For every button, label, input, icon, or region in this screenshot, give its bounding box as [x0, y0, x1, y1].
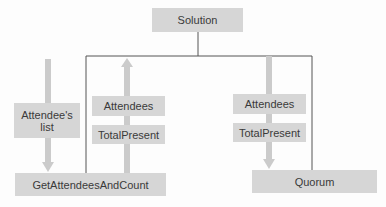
flow-label-totalpresent-out: TotalPresent — [92, 125, 165, 144]
flow-label-attendees-in: Attendees — [233, 94, 306, 114]
flow-label-totalpresent-in: TotalPresent — [233, 123, 306, 142]
module-get-attendees-and-count: GetAttendeesAndCount — [15, 173, 166, 196]
diagram-canvas: Solution Attendee's list Attendees Total… — [0, 0, 386, 207]
flow-label-attendees-out: Attendees — [92, 96, 165, 116]
module-quorum: Quorum — [252, 170, 377, 193]
module-solution: Solution — [152, 8, 243, 32]
flow-label-attendees-list: Attendee's list — [14, 103, 80, 138]
